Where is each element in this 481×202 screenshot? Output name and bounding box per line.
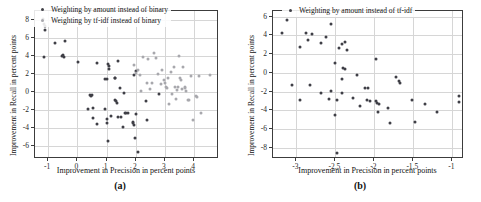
plot-area-a	[34, 10, 218, 158]
scatter-point	[175, 97, 178, 100]
scatter-point	[144, 100, 147, 103]
scatter-point	[351, 96, 354, 99]
gridline-horizontal	[273, 92, 462, 93]
gridline-vertical	[48, 11, 49, 157]
x-tick-mark	[193, 158, 194, 161]
scatter-point	[304, 31, 307, 34]
y-tick-label: -2	[250, 86, 267, 95]
figure-container: Weighting by amount instead of binary We…	[0, 0, 481, 202]
x-tick-mark	[135, 158, 136, 161]
scatter-point	[163, 82, 166, 85]
scatter-point	[135, 71, 138, 74]
x-tick-mark	[106, 158, 107, 161]
scatter-point	[104, 108, 107, 111]
x-tick-label: -1.5	[406, 162, 418, 171]
scatter-point	[107, 139, 110, 142]
scatter-point	[137, 151, 140, 154]
scatter-point	[291, 83, 294, 86]
scatter-point	[365, 99, 368, 102]
legend-b: Weighting by amount instead of tf-idf	[282, 4, 415, 17]
x-tick-label: 0	[74, 162, 78, 171]
scatter-point	[299, 45, 302, 48]
scatter-point	[92, 107, 95, 110]
gridline-vertical	[77, 11, 78, 157]
y-tick-mark	[269, 34, 272, 35]
y-tick-mark	[269, 109, 272, 110]
legend-marker-icon	[289, 9, 292, 12]
scatter-point	[91, 116, 94, 119]
scatter-point	[281, 32, 284, 35]
scatter-point	[123, 92, 126, 95]
scatter-point	[359, 104, 362, 107]
gridline-horizontal	[35, 92, 217, 93]
scatter-point	[43, 55, 46, 58]
y-tick-mark	[31, 127, 34, 128]
scatter-point	[114, 77, 117, 80]
scatter-point	[330, 22, 333, 25]
x-tick-label: -2	[370, 162, 376, 171]
x-tick-mark	[76, 158, 77, 161]
y-tick-mark	[31, 109, 34, 110]
scatter-point	[338, 47, 341, 50]
scatter-point	[169, 71, 172, 74]
scatter-point	[140, 89, 143, 92]
scatter-point	[168, 103, 171, 106]
scatter-point	[64, 40, 67, 43]
scatter-point	[334, 113, 337, 116]
scatter-point	[367, 87, 370, 90]
scatter-point	[191, 119, 194, 122]
y-tick-label: 8	[12, 15, 29, 24]
gridline-vertical	[335, 11, 336, 157]
y-tick-mark	[269, 53, 272, 54]
scatter-point	[435, 111, 438, 114]
scatter-point	[399, 82, 402, 85]
x-tick-label: -3	[292, 162, 298, 171]
gridline-horizontal	[273, 54, 462, 55]
scatter-point	[340, 78, 343, 81]
y-tick-label: 0	[12, 87, 29, 96]
scatter-point	[147, 58, 150, 61]
scatter-point	[53, 41, 56, 44]
scatter-point	[410, 99, 413, 102]
x-tick-mark	[47, 158, 48, 161]
scatter-point	[108, 68, 111, 71]
scatter-point	[116, 60, 119, 63]
x-tick-mark	[412, 158, 413, 161]
scatter-point	[135, 113, 138, 116]
scatter-point	[172, 66, 175, 69]
scatter-point	[182, 66, 185, 69]
scatter-point	[118, 86, 121, 89]
scatter-point	[374, 58, 377, 61]
subfigure-caption: (b)	[240, 180, 480, 191]
gridline-horizontal	[35, 146, 217, 147]
scatter-point	[343, 68, 346, 71]
scatter-point	[126, 111, 129, 114]
scatter-point	[177, 86, 180, 89]
subfigure-caption: (a)	[0, 180, 240, 191]
scatter-point	[145, 119, 148, 122]
x-tick-label: -1	[448, 162, 454, 171]
y-tick-label: 4	[12, 51, 29, 60]
scatter-point	[166, 87, 169, 90]
y-tick-mark	[269, 91, 272, 92]
scatter-point	[134, 136, 137, 139]
scatter-point	[156, 73, 159, 76]
x-tick-label: 3	[162, 162, 166, 171]
x-tick-label: -1	[44, 162, 50, 171]
y-tick-label: -8	[250, 142, 267, 151]
gridline-horizontal	[273, 148, 462, 149]
gridline-vertical	[452, 11, 453, 157]
gridline-vertical	[296, 11, 297, 157]
scatter-point	[157, 92, 160, 95]
scatter-point	[457, 101, 460, 104]
x-tick-mark	[373, 158, 374, 161]
scatter-point	[413, 121, 416, 124]
scatter-point	[139, 74, 142, 77]
scatter-point	[340, 92, 343, 95]
scatter-point	[335, 151, 338, 154]
scatter-point	[95, 123, 98, 126]
scatter-point	[328, 98, 331, 101]
y-tick-label: 2	[12, 69, 29, 78]
gridline-horizontal	[273, 73, 462, 74]
y-tick-mark	[31, 91, 34, 92]
